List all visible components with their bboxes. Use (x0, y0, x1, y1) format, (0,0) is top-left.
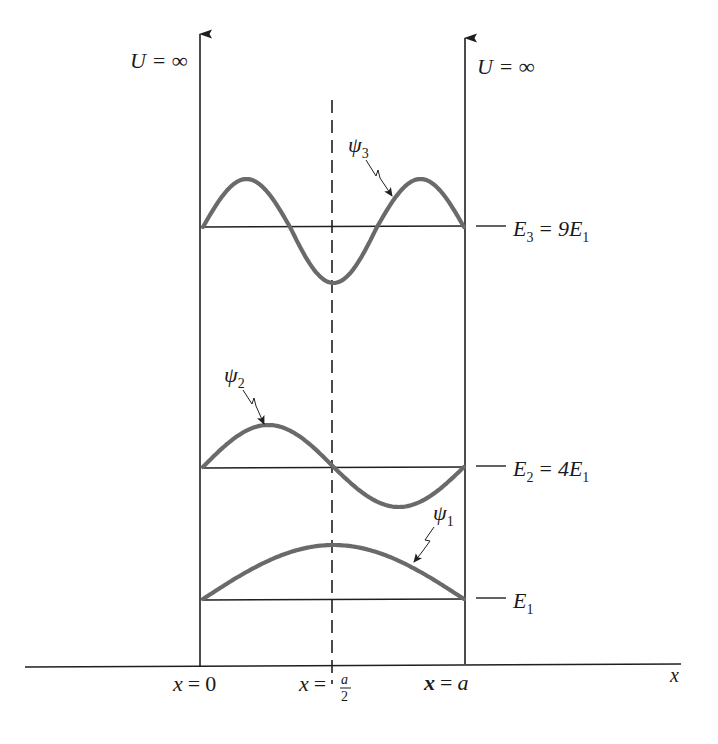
psi1-label: ψ1 (433, 500, 454, 529)
psi2-label: ψ2 (224, 362, 245, 391)
tick-label-x0: x=0 (172, 671, 216, 696)
psi1-wave (203, 545, 464, 599)
psi2-pointer-arrow (243, 390, 264, 424)
psi1-pointer-arrow (414, 527, 434, 562)
x-axis-line (25, 664, 681, 667)
left-wall-label: U = ∞ (130, 48, 188, 73)
tick-label-xa: x=a (423, 670, 468, 695)
right-wall-label: U = ∞ (477, 54, 535, 79)
level-e3-label: E3=9E1 (512, 216, 589, 245)
psi3-label: ψ3 (348, 132, 369, 161)
tick-label-x-half-a-num: a (341, 672, 348, 687)
level-e1-label: E1 (512, 588, 533, 617)
x-axis-label: x (669, 664, 679, 686)
tick-label-x-half-a-den: 2 (341, 689, 348, 704)
psi3-wave (203, 179, 464, 283)
psi3-pointer-arrow (366, 160, 392, 196)
level-e3-line (203, 226, 465, 227)
psi2-wave (203, 425, 464, 507)
infinite-square-well-diagram: x U = ∞ U = ∞ E3=9E1 E2=4E1 E1 ψ3 ψ2 ψ1 … (0, 0, 718, 744)
level-e2-label: E2=4E1 (512, 456, 589, 485)
level-e1-line (203, 599, 465, 600)
tick-label-x-half-a: x= (298, 671, 326, 696)
